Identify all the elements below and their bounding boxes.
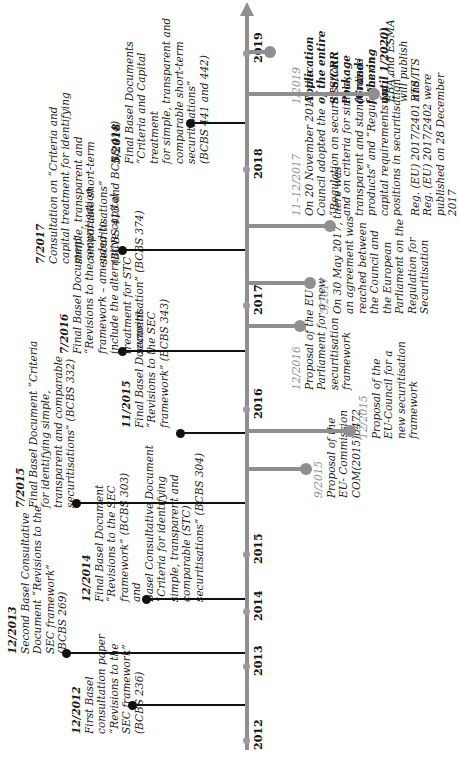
event-date: 12/2012 xyxy=(70,634,83,734)
eu-event-9-2015: 9/2015 Proposal of the EU- Commission CO… xyxy=(312,409,362,498)
basel-event-7-2015: 7/2015 Final Basel Document “Criteria fo… xyxy=(14,341,77,508)
year-label-2016: 2016 xyxy=(252,388,265,419)
event-date: 7/2015 xyxy=(14,341,27,508)
connector-7-2017 xyxy=(122,249,245,251)
basel-event-7-2017: 7/2017 Consultation on “Criteria and cap… xyxy=(34,92,122,264)
event-dot-11-2015 xyxy=(176,429,185,438)
year-label-2018: 2018 xyxy=(252,148,265,179)
connector-eba-esma xyxy=(249,92,373,96)
connector-11-12-2017 xyxy=(249,224,329,228)
year-label-2015: 2015 xyxy=(252,533,265,564)
basel-event-5-2018: 5/2018 Final Basel Documents “Criteria a… xyxy=(110,0,210,164)
basel-event-12-2014: 12/2014 Final Basel Document “Revisions … xyxy=(80,445,205,602)
event-dot-1-2019 xyxy=(264,46,276,58)
connector-12-2013 xyxy=(66,652,245,654)
event-date: 12/2015 xyxy=(357,341,370,439)
year-dot-2014 xyxy=(243,608,250,615)
connector-7-2015 xyxy=(76,502,245,504)
event-note: EBA and ESMA will publish RTS/ITS xyxy=(384,19,422,102)
year-dot-2015 xyxy=(243,551,250,558)
year-dot-2013 xyxy=(243,663,250,670)
connector-5-2017 xyxy=(249,281,309,285)
basel-event-12-2012: 12/2012 First Basel consultation paper “… xyxy=(70,634,145,734)
connector-11-2015 xyxy=(180,432,245,434)
event-dot-11-12-2017 xyxy=(324,220,336,232)
event-dot-5-2017 xyxy=(304,277,316,289)
year-dot-2017 xyxy=(243,302,250,309)
event-text: Final Basel Document “Revisions to the S… xyxy=(93,445,206,602)
basel-event-12-2013: 12/2013 Second Basel Consultative Docume… xyxy=(6,506,69,654)
year-label-2014: 2014 xyxy=(252,590,265,621)
year-label-2012: 2012 xyxy=(252,719,265,750)
event-text: Proposal of the EU-Council for a new sec… xyxy=(370,341,420,439)
connector-9-2015 xyxy=(249,467,305,471)
event-date: 12/2013 xyxy=(6,506,19,654)
event-dot-12-2015 xyxy=(344,425,356,437)
event-text: Final Basel Document “Criteria for ident… xyxy=(27,341,77,508)
event-date: 7/2017 xyxy=(34,92,47,264)
year-dot-2016 xyxy=(243,406,250,413)
year-label-2019: 2019 xyxy=(252,32,265,63)
event-text: Final Basel Documents “Criteria and Capi… xyxy=(123,0,211,164)
year-dot-2018 xyxy=(243,166,250,173)
year-dot-2012 xyxy=(243,737,250,744)
axis-arrow-icon xyxy=(240,2,254,16)
year-label-2017: 2017 xyxy=(252,284,265,315)
connector-12-2012 xyxy=(132,704,245,706)
event-dot-eba-esma xyxy=(368,88,380,100)
event-date: 9/2015 xyxy=(312,409,325,498)
eu-event-12-2015: 12/2015 Proposal of the EU-Council for a… xyxy=(357,341,420,439)
event-date: 5/2018 xyxy=(110,0,123,164)
year-label-2013: 2013 xyxy=(252,645,265,676)
event-text: Second Basel Consultative Document “Revi… xyxy=(19,506,69,654)
event-text: First Basel consultation paper “Revision… xyxy=(83,634,146,734)
connector-12-2015 xyxy=(249,429,349,433)
event-date: 12/2016 xyxy=(290,279,303,390)
eu-event-eba-esma: EBA and ESMA will publish RTS/ITS xyxy=(384,19,422,102)
timeline-axis xyxy=(245,14,249,750)
event-date: 12/2014 xyxy=(80,445,93,602)
event-dot-9-2015 xyxy=(300,463,312,475)
